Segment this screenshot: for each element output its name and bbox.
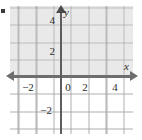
x-axis-left-arrow-icon [6,71,14,81]
y-tick-label-4: 4 [37,15,55,26]
x-tick-label-0: 0 [59,82,77,93]
y-tick-label-neg2: −2 [34,105,52,116]
y-axis-label: y [64,7,69,18]
x-tick-label-neg2: −2 [19,82,37,93]
edge-print-mark [1,9,5,13]
x-axis-line [11,75,133,78]
x-axis-right-arrow-icon [130,71,138,81]
x-tick-label-2: 2 [76,82,94,93]
plot-area [10,6,133,134]
y-axis-line [60,9,62,134]
coordinate-plane-figure: y x −2 0 2 4 4 2 −2 [0,0,142,140]
y-tick-label-2: 2 [37,46,55,57]
x-axis-label: x [124,61,129,72]
x-tick-label-4: 4 [106,82,124,93]
